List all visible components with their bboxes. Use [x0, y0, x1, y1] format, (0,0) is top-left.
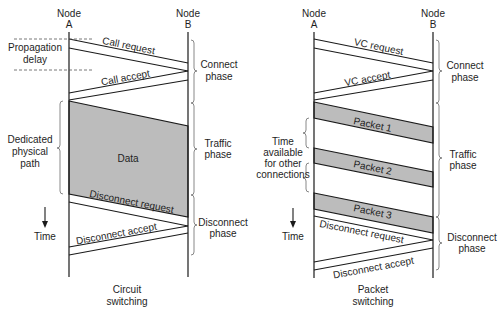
time-arrowhead-icon — [290, 221, 296, 228]
connect-phase-brace-icon — [191, 40, 197, 103]
node-b-label: Node — [176, 8, 200, 19]
vc-accept-label: VC accept — [344, 69, 392, 88]
node-b-label-letter: B — [430, 19, 437, 30]
dedicated-path-label-line3: path — [20, 158, 39, 169]
time-arrowhead-icon — [42, 221, 48, 228]
packet-switching-caption-line2: switching — [352, 296, 393, 307]
call-accept-label: Call accept — [100, 68, 151, 88]
disconnect-phase-label-line2: phase — [209, 228, 237, 239]
disconnect-accept-label: Disconnect accept — [75, 221, 158, 247]
packet-switching-caption: Packet — [358, 284, 389, 295]
node-a-label-letter: A — [311, 19, 318, 30]
propagation-delay-label: Propagation — [8, 42, 62, 53]
traffic-phase-label-line2: phase — [204, 149, 232, 160]
circuit-switching-caption-line2: switching — [106, 296, 147, 307]
disconnect-phase-label-line2: phase — [458, 243, 486, 254]
time-label: Time — [34, 231, 56, 242]
node-b-label-letter: B — [185, 19, 192, 30]
call-request-label: Call request — [101, 35, 156, 56]
time-label: Time — [282, 231, 304, 242]
dedicated-path-label: Dedicated — [7, 134, 52, 145]
propagation-delay-label-line2: delay — [23, 54, 47, 65]
time-available-label: Time — [272, 136, 294, 147]
dedicated-path-brace-icon — [57, 101, 63, 194]
traffic-phase-label: Traffic — [204, 138, 231, 149]
time-available-label-line3: for other — [264, 158, 302, 169]
data-label: Data — [117, 153, 139, 164]
disconnect-phase-brace-icon — [436, 217, 442, 270]
time-available-label-line4: connections — [256, 169, 309, 180]
disconnect-phase-label: Disconnect — [447, 232, 497, 243]
node-a-label: Node — [302, 8, 326, 19]
switching-comparison-diagram: Node A Node B Call request Call accept D… — [0, 0, 502, 312]
packet-switching-diagram: Node A Node B VC request VC accept Packe… — [256, 8, 497, 307]
node-a-label-letter: A — [66, 19, 73, 30]
dedicated-path-label-line2: physical — [12, 146, 48, 157]
connect-phase-label: Connect — [200, 59, 237, 70]
disconnect-phase-brace-icon — [191, 195, 197, 255]
circuit-switching-diagram: Node A Node B Call request Call accept D… — [7, 8, 247, 307]
connect-phase-brace-icon — [436, 40, 442, 103]
traffic-phase-label-line2: phase — [449, 160, 477, 171]
vc-request-label: VC request — [353, 36, 404, 57]
disconnect-phase-label: Disconnect — [198, 217, 248, 228]
traffic-phase-label: Traffic — [449, 149, 476, 160]
circuit-switching-caption: Circuit — [113, 284, 142, 295]
connect-phase-label: Connect — [446, 60, 483, 71]
time-available-label-line2: available — [263, 147, 303, 158]
connect-phase-label-line2: phase — [205, 71, 233, 82]
traffic-phase-brace-icon — [191, 103, 197, 195]
time-available-brace-1-icon — [303, 118, 309, 148]
traffic-phase-brace-icon — [436, 103, 442, 217]
node-a-label: Node — [57, 8, 81, 19]
connect-phase-label-line2: phase — [451, 72, 479, 83]
node-b-label: Node — [421, 8, 445, 19]
